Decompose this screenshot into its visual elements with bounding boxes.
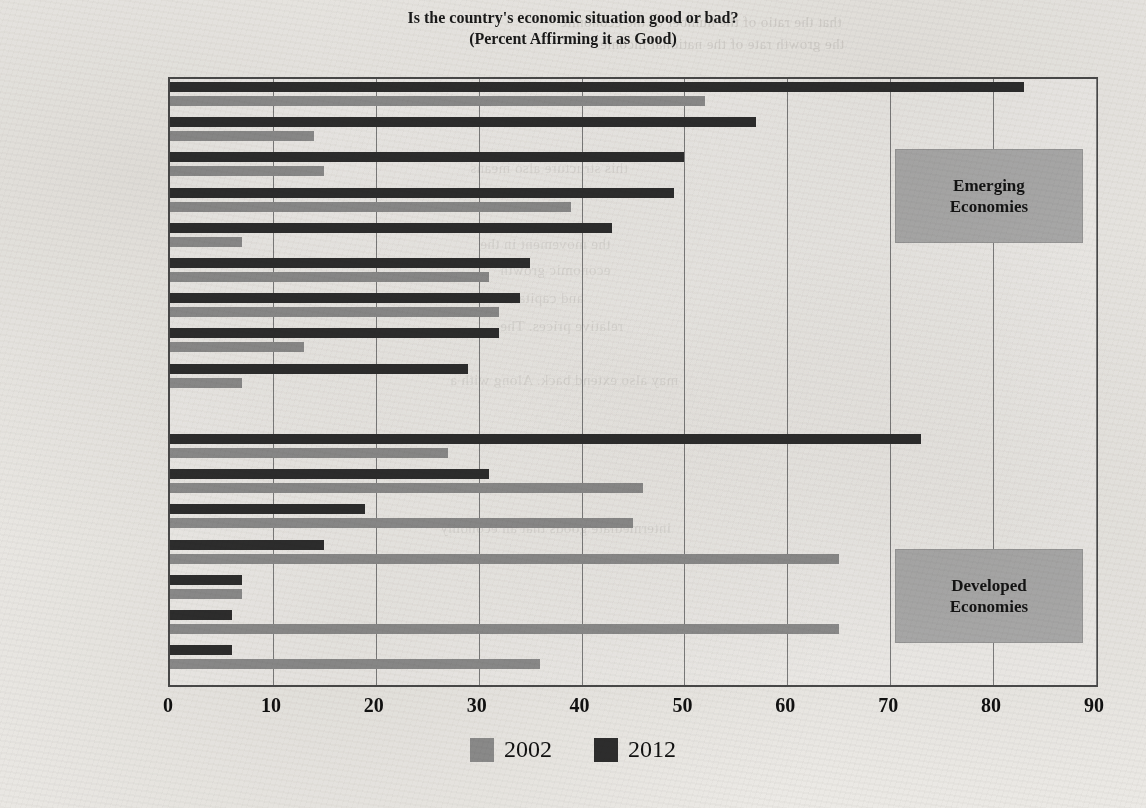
bar-nigeria-2002: [170, 307, 499, 317]
bar-poland-2002: [170, 378, 242, 388]
chart-title-main: Is the country's economic situation good…: [0, 8, 1146, 29]
tick-label-90: 90: [1064, 694, 1124, 717]
bar-france-2002: [170, 518, 633, 528]
gridline-90: [1096, 79, 1097, 685]
gridline-20: [376, 79, 377, 685]
plot-area: EmergingEconomiesDevelopedEconomies: [168, 77, 1098, 687]
bar-japan-2012: [170, 575, 242, 585]
bar-indonesia-2002: [170, 166, 324, 176]
group-box-line2: Economies: [950, 596, 1028, 617]
legend-entry-2002[interactable]: 2002: [470, 736, 552, 763]
bar-china-2012: [170, 82, 1024, 92]
legend-swatch-2012: [594, 738, 618, 762]
bar-russia-2002: [170, 342, 304, 352]
bar-russia-2012: [170, 328, 499, 338]
chart-title: Is the country's economic situation good…: [0, 8, 1146, 50]
bar-japan-2002: [170, 589, 242, 599]
legend-swatch-2002: [470, 738, 494, 762]
chart-legend: 20022012: [0, 736, 1146, 763]
bar-britain-2002: [170, 554, 839, 564]
bar-britain-2012: [170, 540, 324, 550]
bar-united-states-2002: [170, 483, 643, 493]
bar-nigeria-2012: [170, 293, 520, 303]
group-box-line1: Emerging: [950, 175, 1028, 196]
bar-turkey-2012: [170, 117, 756, 127]
bar-india-2002: [170, 202, 571, 212]
tick-label-50: 50: [652, 694, 712, 717]
group-box-line2: Economies: [950, 196, 1028, 217]
bar-india-2012: [170, 188, 674, 198]
gridline-60: [787, 79, 788, 685]
chart-subtitle: (Percent Affirming it as Good): [0, 29, 1146, 50]
tick-label-60: 60: [755, 694, 815, 717]
bar-united-states-2012: [170, 469, 489, 479]
bar-spain-2002: [170, 624, 839, 634]
bar-italy-2002: [170, 659, 540, 669]
bar-mexico-2002: [170, 272, 489, 282]
bar-indonesia-2012: [170, 152, 684, 162]
group-box-line1: Developed: [950, 575, 1028, 596]
gridline-70: [890, 79, 891, 685]
legend-label-2002: 2002: [504, 736, 552, 763]
bar-germany-2002: [170, 448, 448, 458]
legend-entry-2012[interactable]: 2012: [594, 736, 676, 763]
bar-kenya-2012: [170, 223, 612, 233]
bar-kenya-2002: [170, 237, 242, 247]
bar-turkey-2002: [170, 131, 314, 141]
gridline-40: [582, 79, 583, 685]
tick-label-80: 80: [961, 694, 1021, 717]
group-box-emerging: EmergingEconomies: [895, 149, 1082, 243]
gridline-30: [479, 79, 480, 685]
bar-italy-2012: [170, 645, 232, 655]
bar-france-2012: [170, 504, 365, 514]
tick-label-70: 70: [858, 694, 918, 717]
tick-label-40: 40: [550, 694, 610, 717]
tick-label-20: 20: [344, 694, 404, 717]
tick-label-0: 0: [138, 694, 198, 717]
bar-spain-2012: [170, 610, 232, 620]
tick-label-10: 10: [241, 694, 301, 717]
tick-label-30: 30: [447, 694, 507, 717]
group-box-developed: DevelopedEconomies: [895, 549, 1082, 643]
bar-mexico-2012: [170, 258, 530, 268]
bar-poland-2012: [170, 364, 468, 374]
legend-label-2012: 2012: [628, 736, 676, 763]
bar-germany-2012: [170, 434, 921, 444]
bar-china-2002: [170, 96, 705, 106]
gridline-50: [684, 79, 685, 685]
